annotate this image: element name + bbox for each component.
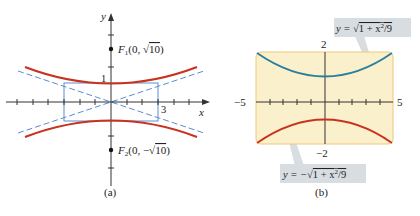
svg-text:F2(0, −√10): F2(0, −√10) (117, 144, 170, 158)
focus-1-point (109, 47, 113, 51)
y-axis-label: y (100, 10, 106, 22)
panel-a: y x 1 3 F1(0, √10) F2(0, −√10) (a) (6, 10, 210, 199)
panel-b: −5 5 2 −2 y = √1 + x2/9 y = −√1 + x2/9 (… (234, 18, 411, 199)
figure: y x 1 3 F1(0, √10) F2(0, −√10) (a) (0, 0, 420, 216)
x-min-label: −5 (234, 96, 246, 108)
x-axis-label: x (198, 106, 204, 118)
y-axis-arrow-icon (108, 13, 114, 21)
callout-upper-text: y = √1 + x2/9 (335, 22, 392, 34)
caption-a: (a) (104, 186, 117, 199)
y-tick-label-1: 1 (101, 73, 106, 84)
x-max-label: 5 (397, 96, 403, 108)
x-axis-arrow-icon (202, 99, 210, 105)
focus-1-label: F1(0, √10) (117, 43, 164, 57)
y-min-label: −2 (316, 147, 328, 159)
focus-2-label: F2(0, −√10) (117, 144, 170, 158)
svg-text:F1(0, √10): F1(0, √10) (117, 43, 164, 57)
focus-2-point (109, 148, 113, 152)
x-tick-label-3: 3 (161, 104, 166, 115)
caption-b: (b) (315, 186, 328, 199)
y-max-label: 2 (321, 38, 327, 50)
